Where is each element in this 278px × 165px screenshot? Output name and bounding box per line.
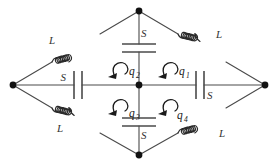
S-right-capacitor bbox=[196, 71, 204, 99]
mesh-label-q3: q bbox=[129, 107, 135, 120]
branch-bottom-left: L bbox=[13, 85, 139, 155]
arrow-curve-q4 bbox=[163, 100, 178, 112]
S-top-capacitor bbox=[122, 44, 156, 52]
mesh-arrow-q2: q 2 bbox=[108, 63, 140, 80]
L-top-right-inductor bbox=[178, 32, 200, 41]
arrow-head-q4 bbox=[158, 110, 167, 116]
coil-path-top-left bbox=[52, 55, 71, 64]
mesh-arrow-q4: q 4 bbox=[158, 100, 188, 124]
mesh-arrow-q1: q 1 bbox=[158, 63, 190, 80]
mesh-label-q4-subscript: 4 bbox=[184, 115, 188, 124]
mesh-label-q2: q bbox=[129, 65, 135, 78]
circuit-canvas: L L L L bbox=[0, 0, 278, 165]
circuit-diagram: L L L L bbox=[0, 0, 278, 165]
node-top bbox=[136, 8, 143, 15]
branch-top-right: L bbox=[139, 11, 265, 85]
wire-bottom-left-lower bbox=[100, 133, 139, 155]
wire-top-left-lower bbox=[13, 62, 52, 85]
arrow-curve-q1 bbox=[163, 63, 178, 75]
mesh-label-q4: q bbox=[177, 109, 183, 122]
node-right bbox=[262, 82, 269, 89]
wire-bottom-right-upper bbox=[226, 85, 265, 108]
S-left-capacitor bbox=[74, 71, 82, 99]
mesh-label-q3-subscript: 3 bbox=[135, 113, 140, 122]
mesh-label-q2-subscript: 2 bbox=[136, 71, 140, 80]
node-center bbox=[136, 82, 143, 89]
capacitor-label-right: S bbox=[207, 89, 213, 101]
inductor-label-bottom-left: L bbox=[56, 122, 63, 134]
branch-left-center: S bbox=[13, 71, 139, 99]
wire-bottom-left-upper bbox=[13, 85, 52, 108]
L-bottom-right-inductor bbox=[178, 126, 197, 135]
arrow-head-q1 bbox=[158, 73, 167, 79]
arrow-curve-q2 bbox=[113, 63, 128, 75]
mesh-label-q1: q bbox=[179, 65, 185, 78]
capacitor-label-top: S bbox=[141, 27, 147, 39]
L-bottom-left-inductor bbox=[52, 106, 74, 115]
inductor-label-top-right: L bbox=[215, 28, 222, 40]
L-top-left-inductor bbox=[52, 55, 71, 64]
coil-path-top-right bbox=[178, 32, 200, 41]
branch-bottom-right: L bbox=[139, 85, 265, 155]
inductor-label-top-left: L bbox=[48, 34, 55, 46]
node-left bbox=[10, 82, 17, 89]
inductor-label-bottom-right: L bbox=[218, 127, 225, 139]
node-bottom bbox=[136, 152, 143, 159]
arrow-head-q2 bbox=[108, 73, 117, 79]
branch-top-left: L bbox=[13, 11, 139, 85]
arrow-head-q3 bbox=[108, 110, 117, 116]
wire-top-right-lower bbox=[226, 62, 265, 85]
mesh-label-q1-subscript: 1 bbox=[186, 71, 190, 80]
arrow-curve-q3 bbox=[113, 100, 128, 112]
capacitor-label-left: S bbox=[61, 71, 67, 83]
coil-path-bottom-right bbox=[178, 126, 197, 135]
wire-top-left-upper bbox=[100, 11, 139, 34]
coil-path-bottom-left bbox=[52, 106, 74, 115]
capacitor-label-bottom: S bbox=[141, 129, 147, 141]
